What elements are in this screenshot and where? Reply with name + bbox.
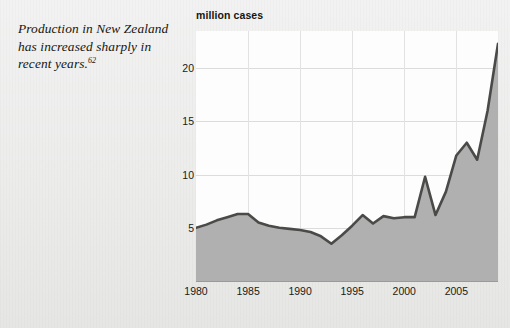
y-axis-tick-label: 10 bbox=[160, 169, 194, 181]
plot-area bbox=[196, 31, 498, 281]
x-axis-tick-label: 2005 bbox=[436, 285, 476, 297]
figure-caption: Production in New Zealand has increased … bbox=[18, 20, 178, 73]
x-axis-baseline bbox=[196, 281, 498, 282]
chart-panel: million cases 51015201980198519901995200… bbox=[196, 9, 498, 319]
figure-container: Production in New Zealand has increased … bbox=[0, 0, 510, 328]
series-area-fill bbox=[196, 44, 498, 281]
caption-footnote-marker: 62 bbox=[88, 56, 96, 65]
x-axis-tick-label: 1980 bbox=[176, 285, 216, 297]
x-axis-tick-label: 2000 bbox=[384, 285, 424, 297]
y-axis-tick-label: 20 bbox=[160, 62, 194, 74]
x-axis-tick-label: 1990 bbox=[280, 285, 320, 297]
y-axis-tick-label: 5 bbox=[160, 222, 194, 234]
y-axis-tick-label: 15 bbox=[160, 115, 194, 127]
x-axis-tick-label: 1985 bbox=[228, 285, 268, 297]
series-graphic bbox=[196, 31, 498, 281]
y-axis-title: million cases bbox=[196, 9, 263, 21]
x-axis-tick-label: 1995 bbox=[332, 285, 372, 297]
